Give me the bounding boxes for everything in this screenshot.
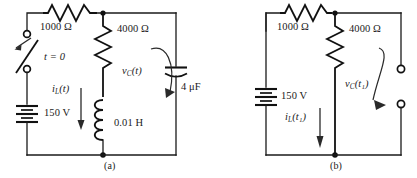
label-capacitor-voltage-b: vC(t₁) [345, 79, 369, 91]
label-resistor-1000-ohm-a: 1000 Ω [40, 22, 72, 33]
voltage-a-arc-line [151, 48, 172, 92]
label-resistor-1000-ohm-b: 1000 Ω [277, 22, 309, 33]
caption-b: (b) [330, 161, 342, 171]
circuit-figure: 1000 Ω t = 0 150 V 4000 Ω 0.01 H 4 μF iL… [0, 0, 417, 178]
label-capacitor-voltage-a-arg: (t) [132, 65, 142, 76]
voltage-b-arc-head [374, 100, 386, 110]
current-a-arrow-head [78, 120, 85, 130]
label-source-150v-a: 150 V [44, 108, 70, 119]
label-switch-time-a: t = 0 [44, 52, 65, 63]
switch-a-open-arrow-line [16, 38, 31, 48]
label-capacitor-4uf-a: 4 μF [181, 82, 201, 93]
resistor-1000-ohm-b-symbol [280, 5, 332, 21]
switch-a-terminal-top[interactable] [24, 31, 31, 38]
caption-a: (a) [104, 161, 115, 171]
resistor-1000-ohm-a-symbol [43, 5, 97, 21]
resistor-4000-ohm-b-symbol [327, 13, 343, 155]
battery-b-symbol [255, 89, 277, 105]
label-source-150v-b: 150 V [281, 91, 307, 102]
label-inductor-current-a-arg: (t) [59, 83, 69, 94]
label-inductor-current-a: iL(t) [52, 84, 69, 96]
battery-a-symbol [16, 106, 38, 122]
switch-a-open-arrow-head [15, 45, 22, 51]
label-inductor-current-b: iL(t₁) [285, 112, 306, 124]
resistor-4000-ohm-a-symbol [95, 13, 111, 97]
open-terminal-b-bottom[interactable] [397, 100, 404, 107]
label-capacitor-voltage-a: vC(t) [122, 66, 142, 78]
current-b-arrow-head [317, 136, 324, 148]
label-resistor-4000-ohm-b: 4000 Ω [349, 24, 381, 35]
switch-a-terminal-bottom[interactable] [24, 66, 31, 73]
open-terminal-b-top[interactable] [397, 65, 404, 72]
voltage-b-arc-line [373, 48, 384, 100]
inductor-a-symbol [95, 100, 103, 140]
label-inductor-001h-a: 0.01 H [114, 118, 143, 129]
label-capacitor-voltage-b-arg: (t₁) [355, 78, 369, 89]
label-resistor-4000-ohm-a: 4000 Ω [117, 24, 149, 35]
label-inductor-current-b-arg: (t₁) [292, 111, 306, 122]
